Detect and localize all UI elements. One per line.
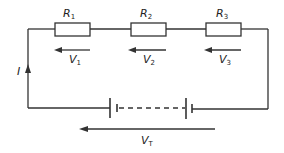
label-vt-subscript: T xyxy=(149,140,153,148)
label-r1-subscript: 1 xyxy=(71,13,75,21)
label-r3-subscript: 3 xyxy=(224,13,228,21)
v3-arrow-head-icon xyxy=(204,47,212,53)
label-v1-symbol: V xyxy=(69,53,77,66)
label-vt-symbol: V xyxy=(141,134,149,147)
label-v3-subscript: 3 xyxy=(227,59,231,67)
current-arrow-up-icon xyxy=(25,64,31,73)
label-v1-subscript: 1 xyxy=(77,59,81,67)
resistor-r2 xyxy=(131,23,166,36)
label-v2-symbol: V xyxy=(143,53,151,66)
label-v2-subscript: 2 xyxy=(151,59,155,67)
v1-arrow-head-icon xyxy=(54,47,62,53)
label-v3-symbol: V xyxy=(219,53,227,66)
label-r2-subscript: 2 xyxy=(148,13,152,21)
resistor-r3 xyxy=(206,23,241,36)
label-v3: V3 xyxy=(219,54,231,67)
v2-arrow-head-icon xyxy=(128,47,136,53)
label-current: I xyxy=(17,66,20,77)
label-r2: R2 xyxy=(140,8,152,21)
vt-arrow-head-icon xyxy=(79,126,88,132)
label-v1: V1 xyxy=(69,54,81,67)
label-r1-symbol: R xyxy=(63,7,71,20)
label-r3-symbol: R xyxy=(216,7,224,20)
label-vt: VT xyxy=(141,135,153,148)
label-r2-symbol: R xyxy=(140,7,148,20)
label-r1: R1 xyxy=(63,8,75,21)
resistor-r1 xyxy=(55,23,90,36)
label-r3: R3 xyxy=(216,8,228,21)
label-v2: V2 xyxy=(143,54,155,67)
circuit-diagram xyxy=(0,0,284,153)
